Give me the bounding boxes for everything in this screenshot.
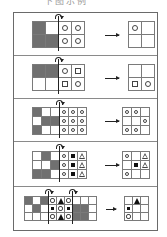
grid-cell (78, 117, 87, 126)
circle-icon (145, 81, 152, 88)
grid-cell (132, 117, 141, 126)
grid-cell (60, 117, 69, 126)
grid-cell (60, 126, 69, 135)
circle-icon (66, 198, 70, 202)
circle-icon (125, 154, 130, 159)
grid-cell (123, 170, 132, 179)
grid-cell (133, 205, 141, 213)
fold-direction-icon (56, 144, 63, 149)
grid-cell (78, 108, 87, 117)
grid-cell (125, 205, 133, 213)
grid-cell (42, 161, 51, 170)
right-arrow-icon (105, 78, 119, 79)
grid-cell (72, 78, 85, 91)
grid-cell (123, 161, 132, 170)
circle-icon (62, 38, 69, 45)
fold-line (58, 16, 59, 51)
square-icon (62, 81, 68, 87)
fold-line (58, 59, 59, 94)
circle-icon (66, 214, 70, 218)
grid-cell (142, 35, 155, 48)
grid-cell (129, 78, 142, 91)
fold-direction-icon (69, 189, 76, 194)
grid-cell (69, 117, 78, 126)
triangle-icon (142, 153, 148, 159)
grid-cell (89, 197, 97, 205)
grid-cell (129, 65, 142, 78)
grid-cell (73, 197, 81, 205)
fold-direction-icon (56, 100, 63, 105)
filled-square-icon (134, 163, 138, 167)
panel-5 (14, 187, 157, 232)
filled-square-icon (51, 207, 55, 211)
circle-icon (62, 25, 69, 32)
circle-icon (71, 110, 76, 115)
grid-cell (141, 108, 150, 117)
shaded-cell (73, 205, 81, 213)
grid-cell (49, 197, 57, 205)
grid-cell (89, 213, 97, 221)
result-grid (124, 196, 149, 221)
grid-cell (78, 152, 87, 161)
shaded-cell (33, 126, 42, 135)
grid-cell (141, 126, 150, 135)
fold-line (72, 191, 73, 224)
source-grid (24, 196, 97, 221)
circle-icon (62, 128, 67, 133)
grid-cell (42, 108, 51, 117)
grid-cell (59, 35, 72, 48)
triangle-icon (142, 162, 148, 168)
grid-cell (123, 152, 132, 161)
circle-icon (75, 25, 82, 32)
grid-cell (57, 197, 65, 205)
fold-line (59, 146, 60, 182)
circle-icon (71, 128, 76, 133)
grid-cell (81, 197, 89, 205)
grid-cell (123, 108, 132, 117)
grid-cell (141, 161, 150, 170)
fold-direction-icon (55, 14, 62, 19)
grid-cell (132, 108, 141, 117)
grid-cell (59, 22, 72, 35)
grid-cell (142, 78, 155, 91)
grid-cell (25, 213, 33, 221)
shaded-cell (81, 205, 89, 213)
circle-icon (125, 172, 130, 177)
grid-cell (129, 35, 142, 48)
panel-3 (14, 99, 157, 142)
circle-icon (58, 206, 62, 210)
filled-triangle-icon (134, 198, 140, 204)
triangle-icon (79, 171, 85, 177)
square-icon (132, 81, 138, 87)
grid-cell (60, 152, 69, 161)
grid-cell (42, 126, 51, 135)
grid-cell (69, 126, 78, 135)
grid-cell (60, 161, 69, 170)
circle-icon (143, 119, 148, 124)
shaded-cell (42, 117, 51, 126)
grid-cell (72, 65, 85, 78)
circle-icon (80, 119, 85, 124)
grid-cell (69, 161, 78, 170)
circle-icon (134, 128, 139, 133)
circle-icon (62, 172, 67, 177)
circle-icon (125, 110, 130, 115)
filled-square-icon (71, 172, 75, 176)
shaded-cell (73, 213, 81, 221)
grid-cell (141, 205, 149, 213)
diagram-frame (13, 12, 158, 231)
grid-cell (142, 22, 155, 35)
result-grid (128, 64, 155, 91)
grid-cell (132, 170, 141, 179)
circle-icon (62, 154, 67, 159)
grid-cell (78, 126, 87, 135)
grid-cell (141, 117, 150, 126)
grid-cell (60, 170, 69, 179)
right-arrow-icon (105, 165, 119, 166)
square-icon (75, 68, 81, 74)
grid-cell (59, 65, 72, 78)
shaded-cell (33, 205, 41, 213)
circle-icon (75, 38, 82, 45)
shaded-cell (33, 108, 42, 117)
grid-cell (57, 205, 65, 213)
